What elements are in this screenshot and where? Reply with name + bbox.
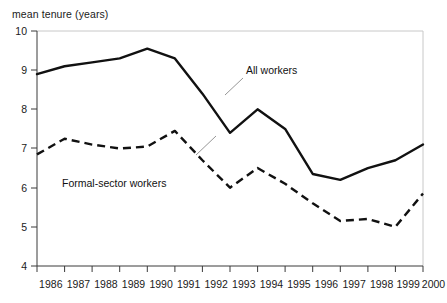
y-axis: 10 9 8 7 6 5 4 (15, 25, 37, 272)
y-tick-label-6: 6 (21, 182, 27, 194)
x-tick-label-1995: 1995 (287, 278, 311, 290)
chart-figure: mean tenure (years) 10 9 8 7 6 5 4 (0, 0, 447, 303)
x-tick-label-1994: 1994 (260, 278, 284, 290)
x-tick-label-1989: 1989 (122, 278, 146, 290)
y-tick-label-5: 5 (21, 221, 27, 233)
annotation-all-workers: All workers (225, 64, 297, 95)
y-tick-marks (31, 31, 37, 266)
y-tick-label-8: 8 (21, 103, 27, 115)
leader-line-all-workers (225, 78, 243, 95)
x-tick-marks (37, 266, 423, 272)
x-tick-label-2000: 2000 (422, 278, 446, 290)
series-line-all-workers (37, 49, 423, 180)
y-tick-label-4: 4 (21, 260, 27, 272)
x-tick-label-1986: 1986 (39, 278, 63, 290)
x-axis: 1986 1987 1988 1989 1990 1991 1992 1993 … (37, 266, 445, 290)
x-tick-label-1991: 1991 (177, 278, 201, 290)
x-tick-label-1996: 1996 (315, 278, 339, 290)
y-tick-label-9: 9 (21, 64, 27, 76)
x-tick-label-1999: 1999 (397, 278, 421, 290)
x-tick-label-1998: 1998 (370, 278, 394, 290)
x-tick-label-1992: 1992 (205, 278, 229, 290)
x-tick-label-1987: 1987 (67, 278, 91, 290)
x-tick-label-1990: 1990 (149, 278, 173, 290)
leader-line-formal-sector (196, 136, 216, 155)
plot-frame (37, 31, 423, 266)
line-chart-plot: 10 9 8 7 6 5 4 (0, 0, 447, 303)
y-tick-label-7: 7 (21, 142, 27, 154)
series-label-all-workers: All workers (246, 64, 297, 76)
series-label-formal-sector-workers: Formal-sector workers (62, 177, 166, 189)
x-tick-label-1993: 1993 (232, 278, 256, 290)
x-tick-label-1997: 1997 (342, 278, 366, 290)
y-tick-label-10: 10 (15, 25, 27, 37)
x-tick-label-1988: 1988 (94, 278, 118, 290)
